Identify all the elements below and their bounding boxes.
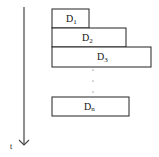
block-dn-subscript: n bbox=[91, 105, 95, 113]
ellipsis-dots bbox=[92, 69, 93, 92]
block-d3-subscript: 3 bbox=[104, 56, 108, 64]
block-dn: Dn bbox=[52, 97, 129, 116]
block-d3-label: D bbox=[97, 51, 104, 62]
block-d2-subscript: 2 bbox=[89, 37, 93, 45]
block-d3: D3 bbox=[52, 47, 151, 67]
block-d2: D2 bbox=[52, 28, 126, 47]
stacked-blocks-diagram: t D1 D2 D3 Dn bbox=[0, 0, 159, 157]
time-axis: t bbox=[10, 7, 29, 151]
block-d1-label: D bbox=[66, 13, 73, 24]
block-dn-label: D bbox=[84, 101, 91, 112]
block-d1-subscript: 1 bbox=[73, 18, 77, 26]
time-axis-label: t bbox=[10, 142, 13, 151]
block-d1: D1 bbox=[52, 9, 89, 28]
block-d2-label: D bbox=[82, 32, 89, 43]
